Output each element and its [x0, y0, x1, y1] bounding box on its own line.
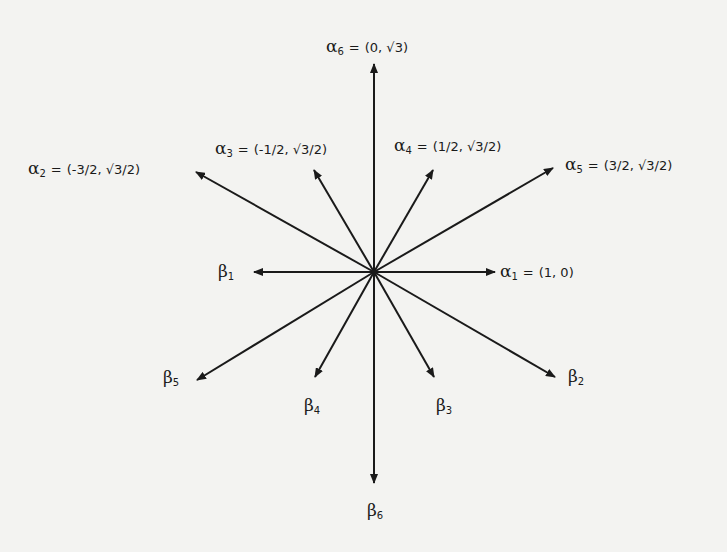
arrow-beta5	[197, 272, 374, 380]
arrow-beta2	[374, 272, 555, 377]
vector-coordinates: (1/2, √3/2)	[433, 139, 502, 154]
vector-subscript: 4	[314, 405, 320, 416]
vector-symbol: α	[28, 158, 39, 178]
vector-subscript: 2	[39, 168, 45, 179]
vector-symbol: α	[326, 36, 337, 56]
vector-subscript: 3	[446, 405, 452, 416]
vector-coordinates: (-3/2, √3/2)	[67, 162, 140, 177]
equals-sign: =	[238, 142, 249, 157]
vector-subscript: 6	[377, 510, 383, 521]
label-alpha2: α2=(-3/2, √3/2)	[28, 160, 140, 179]
label-beta4: β4	[304, 397, 320, 416]
equals-sign: =	[349, 40, 360, 55]
vector-symbol: β	[568, 366, 578, 386]
vector-coordinates: (-1/2, √3/2)	[254, 142, 327, 157]
vector-coordinates: (0, √3)	[365, 40, 408, 55]
vector-symbol: α	[215, 138, 226, 158]
label-alpha3: α3=(-1/2, √3/2)	[215, 140, 327, 159]
vector-subscript: 1	[511, 271, 517, 282]
label-alpha6: α6=(0, √3)	[326, 38, 408, 57]
vector-coordinates: (3/2, √3/2)	[604, 158, 673, 173]
vector-symbol: α	[394, 135, 405, 155]
vector-subscript: 5	[576, 164, 582, 175]
equals-sign: =	[51, 162, 62, 177]
vector-subscript: 1	[228, 271, 234, 282]
vector-symbol: β	[218, 261, 228, 281]
vector-symbol: α	[565, 154, 576, 174]
vector-coordinates: (1, 0)	[539, 265, 574, 280]
equals-sign: =	[523, 265, 534, 280]
vector-symbol: α	[500, 261, 511, 281]
label-beta2: β2	[568, 368, 584, 387]
label-beta1: β1	[218, 263, 234, 282]
label-alpha5: α5=(3/2, √3/2)	[565, 156, 672, 175]
arrow-alpha5	[374, 168, 553, 272]
label-alpha1: α1=(1, 0)	[500, 263, 574, 282]
arrow-beta3	[374, 272, 434, 377]
label-beta5: β5	[163, 369, 179, 388]
vector-symbol: β	[436, 395, 446, 415]
vector-symbol: β	[367, 500, 377, 520]
arrow-alpha2	[196, 172, 374, 272]
vector-subscript: 2	[578, 376, 584, 387]
vector-subscript: 4	[405, 145, 411, 156]
label-beta3: β3	[436, 397, 452, 416]
arrow-alpha3	[314, 170, 374, 272]
vector-symbol: β	[304, 395, 314, 415]
arrow-beta4	[315, 272, 374, 377]
vector-symbol: β	[163, 367, 173, 387]
equals-sign: =	[417, 139, 428, 154]
origin-point	[372, 270, 377, 275]
label-beta6: β6	[367, 502, 383, 521]
label-alpha4: α4=(1/2, √3/2)	[394, 137, 501, 156]
vector-subscript: 6	[337, 46, 343, 57]
arrow-alpha4	[374, 170, 433, 272]
vector-subscript: 5	[173, 377, 179, 388]
equals-sign: =	[588, 158, 599, 173]
root-system-diagram	[0, 0, 727, 552]
vector-subscript: 3	[226, 148, 232, 159]
